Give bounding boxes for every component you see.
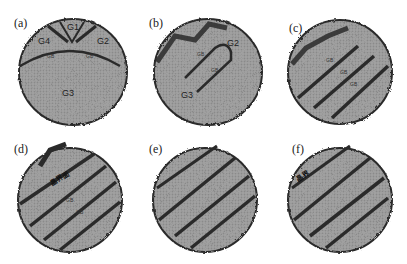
- grain-structure-d: 晶界面 GB GB: [0, 130, 136, 264]
- small-label: GB: [211, 67, 219, 73]
- small-label: GB: [47, 53, 55, 59]
- panel-c: (c) GB GB GB: [270, 0, 406, 132]
- panel-e: (e): [135, 130, 271, 262]
- small-label: GB: [197, 51, 205, 57]
- small-label: GB: [350, 81, 358, 87]
- grain-label-g4: G4: [38, 36, 50, 46]
- grain-label-g3: G3: [181, 90, 193, 100]
- panel-f: (f) 晶界: [270, 130, 406, 262]
- small-label: GB: [340, 69, 348, 75]
- panel-d: (d) 晶界面 GB GB: [0, 130, 136, 262]
- panel-a: (a) G1 G2 G3 G4 GB GB: [0, 0, 136, 132]
- grain-structure-a: G1 G2 G3 G4 GB GB: [0, 0, 136, 132]
- panel-b: (b) G2 G3 GB GB: [135, 0, 271, 132]
- grain-label-g3: G3: [62, 88, 74, 98]
- small-label: GB: [86, 53, 94, 59]
- grain-label-g2: G2: [227, 38, 239, 48]
- grain-label-g2: G2: [97, 36, 109, 46]
- small-label: GB: [326, 57, 334, 63]
- small-label: GB: [66, 197, 74, 203]
- grain-structure-f: 晶界: [270, 130, 406, 264]
- grain-label-g1: G1: [67, 22, 79, 32]
- grain-structure-c: GB GB GB: [270, 0, 406, 132]
- grain-structure-b: G2 G3 GB GB: [135, 0, 271, 132]
- grain-structure-e: [135, 130, 271, 264]
- small-label: GB: [76, 209, 84, 215]
